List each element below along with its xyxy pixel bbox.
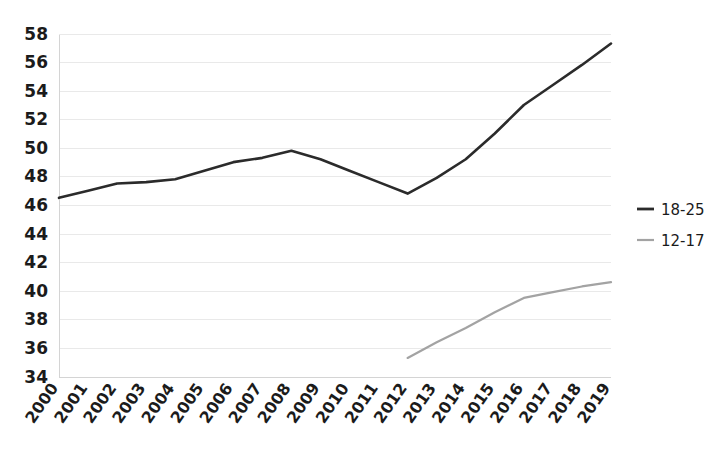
- y-axis-tick-label: 58: [24, 24, 48, 44]
- y-axis-tick-label: 40: [24, 281, 48, 301]
- series-line-18-25: [59, 44, 611, 198]
- y-axis-tick-label: 46: [24, 195, 48, 215]
- legend-label-12-17: 12-17: [661, 232, 705, 250]
- legend: 18-2512-17: [637, 201, 705, 250]
- line-chart: 58565452504846444240383634 2000200120022…: [0, 0, 727, 452]
- y-axis-tick-label: 52: [24, 109, 48, 129]
- legend-label-18-25: 18-25: [661, 201, 705, 219]
- y-axis-tick-label: 48: [24, 166, 48, 186]
- x-axis-labels: 2000200120022003200420052006200720082009…: [21, 379, 614, 426]
- y-axis-tick-label: 44: [24, 224, 48, 244]
- gridlines-group: [59, 35, 611, 378]
- y-axis-tick-label: 42: [24, 252, 48, 272]
- series-group: [59, 44, 611, 358]
- y-axis-tick-label: 56: [24, 52, 48, 72]
- y-axis-tick-label: 38: [24, 309, 48, 329]
- y-axis-tick-label: 36: [24, 338, 48, 358]
- y-axis-tick-label: 50: [24, 138, 48, 158]
- series-line-12-17: [408, 282, 611, 358]
- y-axis-labels: 58565452504846444240383634: [24, 24, 48, 387]
- y-axis-tick-label: 54: [24, 81, 48, 101]
- chart-canvas: 58565452504846444240383634 2000200120022…: [0, 0, 727, 452]
